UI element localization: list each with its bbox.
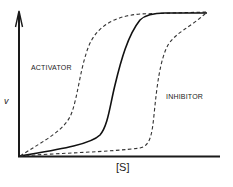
activator-label: ACTIVATOR [31, 64, 72, 71]
normal-curve [20, 13, 207, 156]
allosteric-kinetics-diagram: ACTIVATOR INHIBITOR v [S] [0, 0, 233, 187]
inhibitor-curve [20, 12, 207, 156]
x-axis-label: [S] [116, 161, 129, 173]
diagram-canvas: ACTIVATOR INHIBITOR v [S] [0, 0, 233, 187]
inhibitor-label: INHIBITOR [166, 93, 203, 100]
y-axis-label: v [4, 96, 9, 106]
